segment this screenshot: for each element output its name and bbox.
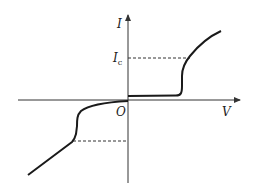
positive-branch-curve [128, 31, 221, 96]
y-axis-label: I [116, 17, 122, 31]
negative-branch-curve [28, 101, 128, 175]
origin-label: O [116, 105, 126, 119]
x-axis-label: V [222, 105, 232, 119]
iv-diagram: I Ic O V [0, 0, 253, 193]
critical-current-label: Ic [112, 51, 123, 67]
